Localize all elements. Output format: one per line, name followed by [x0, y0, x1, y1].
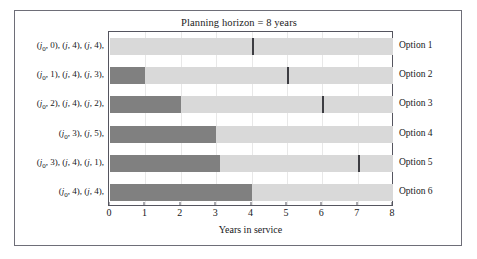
- x-tick-label: 4: [248, 207, 253, 218]
- row-detail-label: (j0, 1), (j, 4), (j, 3),: [37, 69, 104, 84]
- row-option-label: Option 1: [399, 40, 433, 51]
- row-option-label: Option 6: [399, 186, 433, 197]
- x-tick-label: 3: [213, 207, 218, 218]
- row-detail-label: (j0, 4), (j, 4),: [59, 186, 104, 201]
- row-detail-label: (j0, 3), (j, 5),: [59, 128, 104, 143]
- x-tick-mark: [179, 202, 180, 206]
- gridline: [181, 32, 182, 205]
- x-tick-label: 0: [107, 207, 112, 218]
- decision-point-marker: [358, 155, 360, 172]
- x-tick-label: 6: [319, 207, 324, 218]
- x-tick-mark: [215, 202, 216, 206]
- x-tick-mark: [356, 202, 357, 206]
- x-tick-label: 8: [390, 207, 395, 218]
- decision-point-marker: [287, 67, 289, 84]
- gridline: [322, 32, 323, 205]
- x-tick-mark: [392, 202, 393, 206]
- x-tick-mark: [250, 202, 251, 206]
- chart-title: Planning horizon = 8 years: [15, 17, 463, 28]
- gridline: [145, 32, 146, 205]
- x-axis-title: Years in service: [108, 224, 393, 235]
- bar-segment-dark: [110, 96, 181, 113]
- x-tick-mark: [144, 202, 145, 206]
- bar-segment-dark: [110, 155, 220, 172]
- x-tick-mark: [109, 202, 110, 206]
- gridline: [216, 32, 217, 205]
- row-option-label: Option 4: [399, 128, 433, 139]
- decision-point-marker: [322, 96, 324, 113]
- bar-segment-light: [145, 67, 393, 84]
- gridline: [358, 32, 359, 205]
- gridline: [252, 32, 253, 205]
- bar-row: [109, 126, 392, 143]
- bar-segment-dark: [110, 184, 252, 201]
- plot-area: [108, 31, 393, 206]
- bar-row: [109, 155, 392, 172]
- bar-row: [109, 184, 392, 201]
- x-axis-ticks: 012345678: [108, 207, 393, 221]
- row-detail-label: (j0, 2), (j, 4), (j, 2),: [37, 98, 104, 113]
- bar-segment-light: [216, 126, 393, 143]
- bar-segment-dark: [110, 126, 216, 143]
- bar-segment-light: [252, 184, 394, 201]
- row-detail-label: (j0, 3), (j, 4), (j, 1),: [37, 157, 104, 172]
- bar-row: [109, 96, 392, 113]
- x-tick-label: 7: [354, 207, 359, 218]
- bar-segment-dark: [110, 67, 145, 84]
- row-option-label: Option 3: [399, 98, 433, 109]
- row-option-labels: Option 1Option 2Option 3Option 4Option 5…: [399, 31, 461, 206]
- row-option-label: Option 2: [399, 69, 433, 80]
- row-detail-label: (j0, 0), (j, 4), (j, 4),: [37, 40, 104, 55]
- x-tick-mark: [285, 202, 286, 206]
- bar-row: [109, 38, 392, 55]
- row-option-label: Option 5: [399, 157, 433, 168]
- x-tick-mark: [321, 202, 322, 206]
- bar-segment-light: [181, 96, 393, 113]
- row-detail-labels: (j0, 0), (j, 4), (j, 4),(j0, 1), (j, 4),…: [14, 31, 104, 206]
- decision-point-marker: [252, 38, 254, 55]
- x-tick-label: 1: [142, 207, 147, 218]
- x-tick-label: 5: [283, 207, 288, 218]
- bar-segment-light: [220, 155, 393, 172]
- bar-row: [109, 67, 392, 84]
- x-tick-label: 2: [177, 207, 182, 218]
- gridline: [287, 32, 288, 205]
